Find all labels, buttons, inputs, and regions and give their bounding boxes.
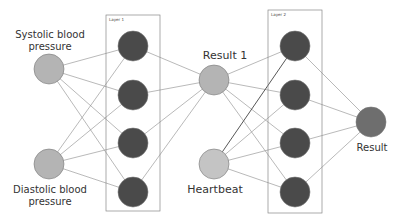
layer2-node-1	[280, 31, 310, 61]
layer2-label: Layer 2	[271, 12, 286, 17]
systolic-node	[34, 54, 64, 84]
result1-label: Result 1	[190, 50, 260, 62]
result-label: Result	[346, 142, 398, 154]
layer1-node-3	[118, 128, 148, 158]
systolic-label: Systolic blood pressure	[0, 29, 100, 53]
layer1-label: Layer 1	[109, 17, 124, 22]
result-node	[356, 107, 386, 137]
layer1-node-4	[118, 177, 148, 207]
heartbeat-label: Heartbeat	[180, 184, 250, 196]
result1-node	[199, 65, 229, 95]
heartbeat-node	[199, 149, 229, 179]
layer1-node-1	[118, 31, 148, 61]
diastolic-node	[34, 149, 64, 179]
layer1-node-2	[118, 80, 148, 110]
diastolic-label: Diastolic blood pressure	[0, 184, 100, 208]
layer2-node-2	[280, 80, 310, 110]
layer2-node-4	[280, 177, 310, 207]
layer2-node-3	[280, 128, 310, 158]
